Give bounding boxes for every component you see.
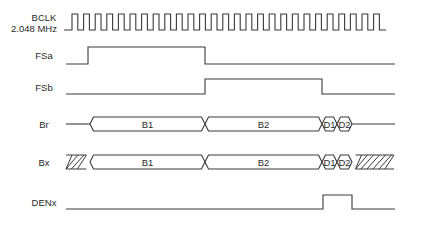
bus-data-d1: D1 [322,155,337,169]
waveform-fsa [66,47,395,64]
bus-segment-label: D2 [338,119,350,130]
bus-data-d2: D2 [337,155,352,169]
bus-segment-label: B1 [142,157,154,168]
bus-segment-label: B2 [258,119,270,130]
signal-row-br: Br B1B2D1D2 [39,117,395,131]
bus-data-d1: D1 [322,117,337,131]
waveform-denx [66,195,395,209]
signal-sublabel-bclk-frequency: 2.048 MHz [11,23,57,34]
signal-row-fsb: FSb [35,79,395,94]
signal-label-bx: Bx [38,157,49,168]
bus-segment-label: B2 [258,157,270,168]
bus-undefined-hatch [356,155,395,169]
timing-diagram: BCLK 2.048 MHz FSa FSb Br B1B2D1D2 Bx B1… [0,0,421,229]
signal-label-fsb: FSb [35,82,52,93]
signal-label-br: Br [39,119,49,130]
signal-row-fsa: FSa [35,47,395,64]
waveform-br: B1B2D1D2 [66,117,395,131]
signal-label-bclk: BCLK [32,12,57,23]
waveform-bx: B1B2D1D2 [66,155,394,169]
bus-segment-label: B1 [142,119,154,130]
bus-data-d2: D2 [337,117,352,131]
bus-data-b2: B2 [205,117,322,131]
signal-label-denx: DENx [32,197,57,208]
bus-data-b1: B1 [90,117,205,131]
signal-label-fsa: FSa [35,50,53,61]
signal-row-bx: Bx B1B2D1D2 [38,155,394,169]
bus-segment-label: D2 [338,157,350,168]
bus-segment-label: D1 [323,119,335,130]
bus-segment-label: D1 [323,157,335,168]
signal-row-denx: DENx [32,195,395,209]
signal-row-bclk: BCLK 2.048 MHz [11,12,386,34]
waveform-bclk [64,14,386,30]
bus-data-b1: B1 [90,155,205,169]
waveform-fsb [66,79,395,94]
bus-data-b2: B2 [205,155,322,169]
bus-undefined-hatch [66,155,87,169]
